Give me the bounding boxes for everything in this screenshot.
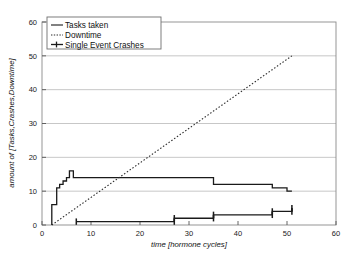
- chart-legend: Tasks taken Downtime Single Event Crashe…: [47, 17, 161, 50]
- y-tick-label: 60: [29, 18, 37, 27]
- y-tick-label: 0: [33, 221, 37, 230]
- x-tick-label: 50: [283, 229, 291, 238]
- x-axis-title: time [hormone cycles]: [151, 240, 228, 249]
- legend-label-single-event-crashes: Single Event Crashes: [65, 41, 144, 50]
- x-tick-label: 10: [87, 229, 95, 238]
- x-tick-label: 20: [136, 229, 144, 238]
- chart-figure: 0102030405060 0102030405060 Tasks taken …: [0, 0, 357, 265]
- y-tick-label: 50: [29, 52, 37, 61]
- y-axis-title: amount of [Tasks,Crashes,Downtime]: [7, 58, 16, 188]
- legend-label-downtime: Downtime: [65, 31, 102, 40]
- x-tick-label: 0: [40, 229, 44, 238]
- y-tick-label: 10: [29, 187, 37, 196]
- y-tick-label: 40: [29, 85, 37, 94]
- y-tick-label: 30: [29, 119, 37, 128]
- x-tick-label: 30: [185, 229, 193, 238]
- y-tick-label: 20: [29, 153, 37, 162]
- x-tick-label: 60: [332, 229, 340, 238]
- x-tick-label: 40: [234, 229, 242, 238]
- legend-label-tasks-taken: Tasks taken: [65, 21, 109, 30]
